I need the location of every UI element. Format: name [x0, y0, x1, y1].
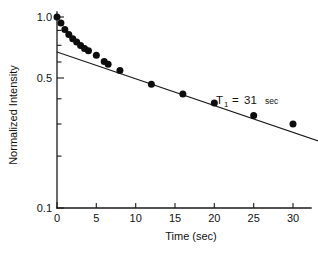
t1-subscript: 1 — [224, 100, 229, 109]
figure-container: 1.0 0.5 0.1 0 5 10 15 20 25 30 Time (sec… — [0, 0, 318, 253]
data-point — [116, 67, 123, 74]
t1-unit: sec — [265, 96, 279, 106]
x-tick-label-15: 15 — [169, 212, 181, 224]
data-point — [250, 112, 257, 119]
x-tick-label-20: 20 — [208, 212, 220, 224]
t1-equals: = — [232, 94, 239, 106]
x-tick-label-30: 30 — [287, 212, 299, 224]
x-tick-label-10: 10 — [130, 212, 142, 224]
data-point — [85, 47, 92, 54]
data-point — [54, 14, 61, 21]
x-tick-label-5: 5 — [93, 212, 99, 224]
y-tick-label-3: 0.1 — [37, 202, 52, 214]
axes-group — [57, 12, 311, 208]
data-point — [179, 91, 186, 98]
x-tick-label-25: 25 — [248, 212, 260, 224]
data-point — [148, 81, 155, 88]
decay-plot: 1.0 0.5 0.1 0 5 10 15 20 25 30 Time (sec… — [0, 0, 318, 253]
data-point — [105, 61, 112, 68]
data-point — [57, 20, 64, 27]
data-points-group — [54, 14, 297, 128]
x-axis-title: Time (sec) — [165, 230, 217, 242]
y-axis-title: Normalized Intensity — [7, 65, 19, 165]
y-axis-minor-ticks — [57, 30, 62, 156]
x-axis-tick-labels: 0 5 10 15 20 25 30 — [54, 212, 299, 224]
x-tick-label-0: 0 — [54, 212, 60, 224]
fit-line — [57, 52, 318, 142]
x-axis-ticks — [57, 202, 293, 208]
data-point — [93, 52, 100, 59]
y-tick-label-2: 0.5 — [37, 72, 52, 84]
y-axis-tick-labels: 1.0 0.5 0.1 — [37, 11, 52, 214]
t1-annotation: T 1 = 31 sec — [216, 94, 279, 109]
data-point — [290, 121, 297, 128]
t1-symbol: T — [216, 94, 223, 106]
t1-value: 31 — [244, 94, 257, 106]
y-tick-label-1: 1.0 — [37, 11, 52, 23]
